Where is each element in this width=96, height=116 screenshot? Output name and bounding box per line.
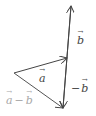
label-neg-b: −b xyxy=(71,83,88,94)
label-a-text: a xyxy=(39,73,46,84)
label-neg-b-text: b xyxy=(81,83,88,94)
vector-diagram: b a −b a−b xyxy=(0,0,96,116)
label-diff-b: b xyxy=(26,95,33,106)
minus-sign: − xyxy=(71,82,80,95)
label-diff-a: a xyxy=(6,95,13,106)
label-diff-op: − xyxy=(15,94,24,107)
label-a: a xyxy=(39,73,46,84)
vector-neg-b-arrow xyxy=(63,6,71,108)
label-a-minus-b: a−b xyxy=(6,95,33,106)
label-b-text: b xyxy=(77,35,84,46)
label-b: b xyxy=(77,35,84,46)
